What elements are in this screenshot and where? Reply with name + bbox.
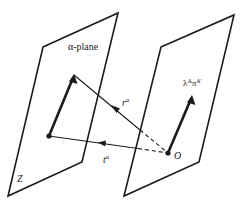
lambda-pi-arrow (168, 100, 191, 153)
origin-dot (165, 150, 170, 155)
alpha-thick-arrow (49, 79, 73, 136)
t-vector-line (49, 136, 138, 149)
alpha-plane-label: α-plane (68, 41, 99, 52)
t-label: ta (103, 153, 109, 165)
alpha-point-dot (46, 133, 51, 138)
origin-label: O (174, 150, 181, 161)
r-vector-dashed (140, 130, 168, 153)
r-vector-line (74, 75, 140, 130)
right-plane (124, 15, 234, 196)
twistor-diagram: α-plane Z O ra ta λAπA′ (0, 0, 241, 205)
lambda-pi-label: λAπA′ (183, 78, 203, 89)
z-label: Z (17, 173, 23, 184)
r-label: ra (122, 96, 129, 108)
